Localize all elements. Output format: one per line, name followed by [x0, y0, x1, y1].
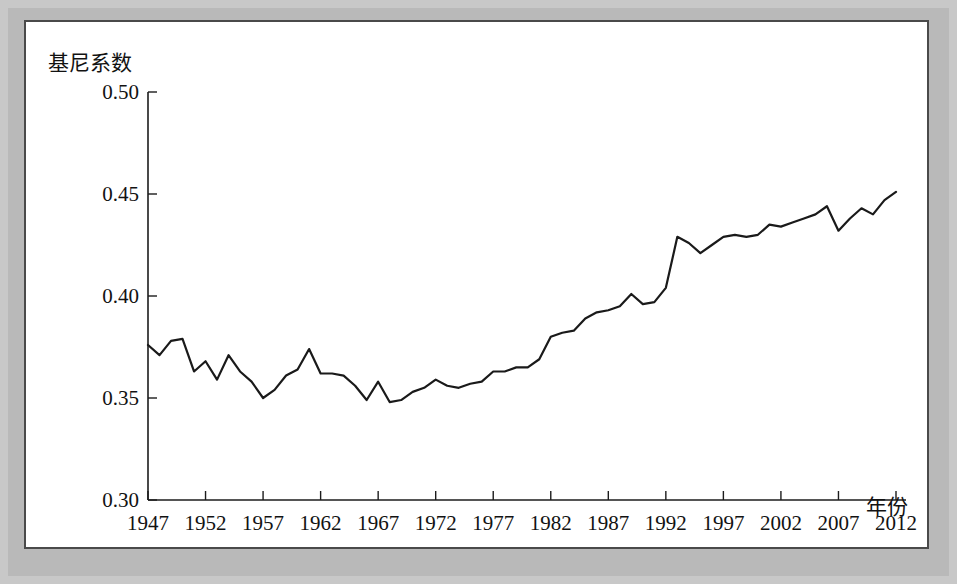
y-tick-label: 0.40	[102, 284, 139, 308]
gini-coefficient-line-chart: 0.300.350.400.450.50 1947195219571962196…	[26, 22, 927, 547]
figure-root: 0.300.350.400.450.50 1947195219571962196…	[0, 0, 957, 584]
plot-surface: 0.300.350.400.450.50 1947195219571962196…	[26, 22, 927, 547]
x-tick-label: 1992	[645, 511, 687, 535]
y-axis-ticks	[148, 92, 157, 500]
x-tick-label: 2007	[817, 511, 859, 535]
y-axis-title: 基尼系数	[48, 51, 132, 75]
x-axis-title: 年份	[866, 495, 908, 519]
x-tick-label: 1967	[357, 511, 399, 535]
y-tick-label: 0.50	[102, 80, 139, 104]
x-tick-label: 1982	[530, 511, 572, 535]
x-tick-label: 1962	[300, 511, 342, 535]
y-tick-label: 0.35	[102, 386, 139, 410]
y-axis-tick-labels: 0.300.350.400.450.50	[102, 80, 139, 512]
x-tick-label: 1947	[127, 511, 169, 535]
x-axis: 1947195219571962196719721977198219871992…	[127, 491, 917, 535]
x-tick-label: 2002	[760, 511, 802, 535]
y-tick-label: 0.45	[102, 182, 139, 206]
y-axis: 0.300.350.400.450.50	[102, 80, 157, 512]
data-series-line	[148, 192, 896, 402]
x-tick-label: 1952	[185, 511, 227, 535]
x-tick-label: 1957	[242, 511, 284, 535]
x-tick-label: 1987	[587, 511, 629, 535]
x-tick-label: 1997	[702, 511, 744, 535]
y-tick-label: 0.30	[102, 488, 139, 512]
x-axis-ticks	[148, 491, 896, 500]
x-tick-label: 1977	[472, 511, 514, 535]
x-axis-tick-labels: 1947195219571962196719721977198219871992…	[127, 511, 917, 535]
x-tick-label: 1972	[415, 511, 457, 535]
